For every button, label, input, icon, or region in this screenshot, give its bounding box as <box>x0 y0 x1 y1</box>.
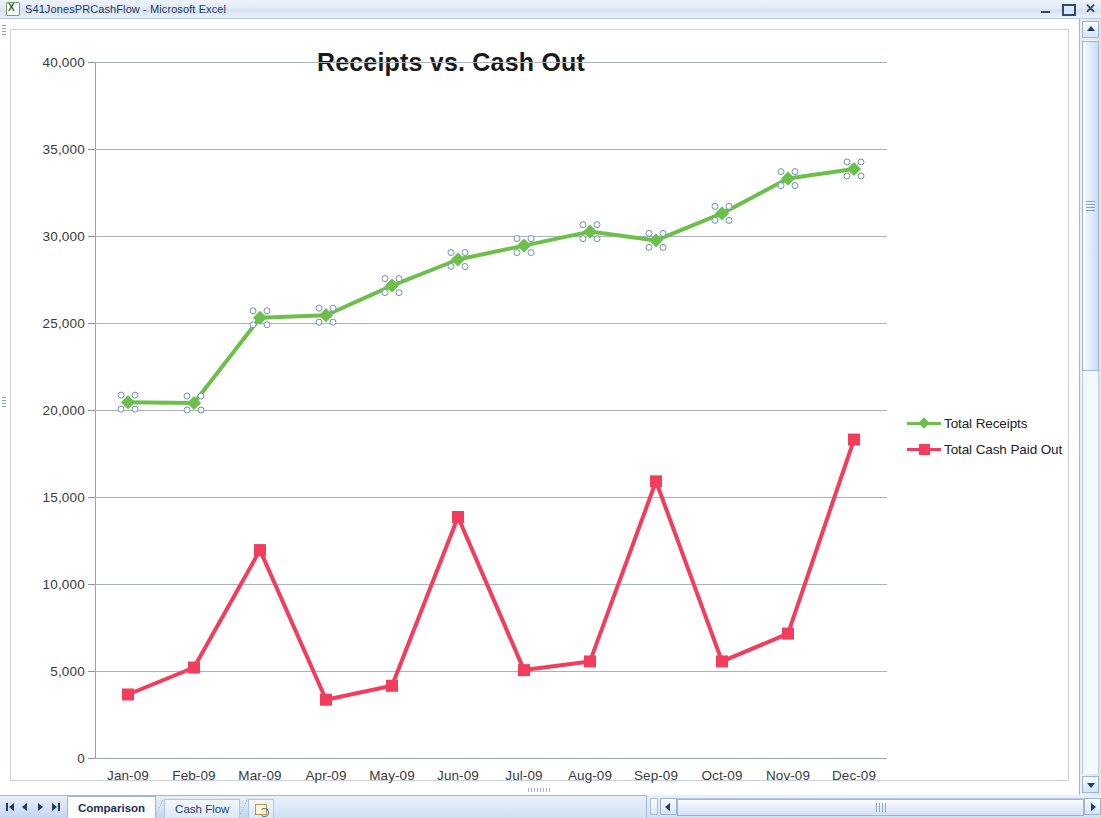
scroll-left-button[interactable] <box>660 798 677 815</box>
selection-handle[interactable] <box>792 169 798 175</box>
series-line[interactable] <box>128 169 854 403</box>
selection-handle[interactable] <box>514 250 520 256</box>
x-axis-tick-label: Feb-09 <box>172 768 215 783</box>
selection-handle[interactable] <box>712 203 718 209</box>
selection-handle[interactable] <box>382 290 388 296</box>
selection-handle[interactable] <box>330 305 336 311</box>
selection-handle[interactable] <box>712 217 718 223</box>
selection-handle[interactable] <box>778 183 784 189</box>
selection-handle[interactable] <box>844 173 850 179</box>
data-point-marker[interactable] <box>650 475 662 487</box>
selection-handle[interactable] <box>580 222 586 228</box>
scroll-right-button[interactable] <box>1084 798 1101 815</box>
selection-handle[interactable] <box>118 406 124 412</box>
tab-split-handle[interactable] <box>650 798 658 815</box>
selection-handle[interactable] <box>462 263 468 269</box>
data-point-marker[interactable] <box>848 434 860 446</box>
x-axis-tick-label: Jul-09 <box>505 768 542 783</box>
data-point-marker[interactable] <box>122 688 134 700</box>
data-point-marker[interactable] <box>584 655 596 667</box>
chart-series-layer[interactable] <box>95 62 887 758</box>
selection-handle[interactable] <box>198 407 204 413</box>
chart-legend[interactable]: Total ReceiptsTotal Cash Paid Out <box>907 410 1067 462</box>
data-point-marker[interactable] <box>452 511 464 523</box>
series-line[interactable] <box>128 440 854 700</box>
legend-entry[interactable]: Total Receipts <box>907 410 1067 436</box>
chart-object[interactable]: Receipts vs. Cash Out 05,00010,00015,000… <box>10 29 1069 781</box>
selection-handle[interactable] <box>726 217 732 223</box>
selection-handle[interactable] <box>660 244 666 250</box>
y-axis-tick-mark <box>88 323 95 324</box>
next-sheet-button[interactable] <box>36 802 45 812</box>
horizontal-scrollbar[interactable] <box>646 795 1101 818</box>
legend-entry[interactable]: Total Cash Paid Out <box>907 436 1067 462</box>
selection-handle[interactable] <box>448 249 454 255</box>
selection-handle[interactable] <box>250 322 256 328</box>
data-point-marker[interactable] <box>782 628 794 640</box>
selection-handle[interactable] <box>184 393 190 399</box>
vertical-scroll-thumb[interactable] <box>1082 41 1099 371</box>
y-axis-tick-label: 10,000 <box>15 577 85 592</box>
y-axis-tick-mark <box>88 149 95 150</box>
insert-worksheet-button[interactable] <box>248 799 274 818</box>
series-2[interactable] <box>122 434 860 706</box>
data-point-marker[interactable] <box>386 680 398 692</box>
selection-handle[interactable] <box>184 407 190 413</box>
selection-handle[interactable] <box>396 276 402 282</box>
restore-button[interactable] <box>1061 2 1075 15</box>
data-point-marker[interactable] <box>716 655 728 667</box>
selection-handle[interactable] <box>594 236 600 242</box>
sheet-tab-cash-flow[interactable]: Cash Flow <box>164 799 240 818</box>
minimize-button[interactable] <box>1039 2 1053 15</box>
data-point-marker[interactable] <box>320 694 332 706</box>
last-sheet-button[interactable] <box>51 802 60 812</box>
scroll-down-button[interactable] <box>1082 776 1099 793</box>
y-axis-tick-mark <box>88 410 95 411</box>
sheet-tab-comparison[interactable]: Comparison <box>67 796 156 818</box>
selection-handle[interactable] <box>858 159 864 165</box>
selection-handle[interactable] <box>594 222 600 228</box>
selection-handle[interactable] <box>316 319 322 325</box>
selection-handle[interactable] <box>132 392 138 398</box>
chart-handle-bottom[interactable] <box>528 788 550 792</box>
x-axis-tick-label: Jan-09 <box>107 768 149 783</box>
selection-handle[interactable] <box>528 236 534 242</box>
close-button[interactable]: ✕ <box>1083 2 1097 15</box>
scroll-up-button[interactable] <box>1082 21 1099 38</box>
selection-handle[interactable] <box>448 263 454 269</box>
selection-handle[interactable] <box>198 393 204 399</box>
selection-handle[interactable] <box>844 159 850 165</box>
selection-handle[interactable] <box>660 230 666 236</box>
horizontal-scroll-track[interactable] <box>677 798 1084 815</box>
x-axis-tick-label: Sep-09 <box>634 768 678 783</box>
selection-handle[interactable] <box>580 236 586 242</box>
vertical-scrollbar[interactable] <box>1079 19 1101 795</box>
selection-handle[interactable] <box>132 406 138 412</box>
series-1[interactable] <box>118 159 864 413</box>
x-axis-tick-label: Apr-09 <box>305 768 346 783</box>
selection-handle[interactable] <box>264 322 270 328</box>
selection-handle[interactable] <box>646 230 652 236</box>
x-axis-tick-label: Mar-09 <box>238 768 281 783</box>
selection-handle[interactable] <box>396 290 402 296</box>
prev-sheet-button[interactable] <box>21 802 30 812</box>
data-point-marker[interactable] <box>188 662 200 674</box>
selection-handle[interactable] <box>778 169 784 175</box>
selection-handle[interactable] <box>858 173 864 179</box>
selection-handle[interactable] <box>382 276 388 282</box>
data-point-marker[interactable] <box>518 664 530 676</box>
first-sheet-button[interactable] <box>6 802 15 812</box>
selection-handle[interactable] <box>514 236 520 242</box>
horizontal-scroll-thumb[interactable] <box>677 799 1084 816</box>
selection-handle[interactable] <box>118 392 124 398</box>
selection-handle[interactable] <box>316 305 322 311</box>
selection-handle[interactable] <box>264 308 270 314</box>
selection-handle[interactable] <box>792 183 798 189</box>
selection-handle[interactable] <box>250 308 256 314</box>
selection-handle[interactable] <box>726 203 732 209</box>
selection-handle[interactable] <box>646 244 652 250</box>
selection-handle[interactable] <box>528 250 534 256</box>
data-point-marker[interactable] <box>254 544 266 556</box>
selection-handle[interactable] <box>330 319 336 325</box>
selection-handle[interactable] <box>462 249 468 255</box>
